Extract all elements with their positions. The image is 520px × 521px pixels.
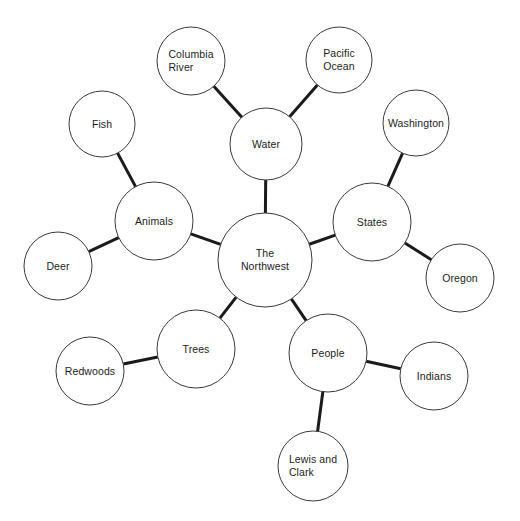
edge-animals-fish [118,153,136,187]
node-circle-indians[interactable] [400,342,468,410]
node-circle-redwoods[interactable] [56,337,124,405]
edge-northwest-animals [191,234,221,244]
concept-web-diagram: The NorthwestWaterAnimalsStatesTreesPeop… [0,0,520,521]
node-circle-water[interactable] [230,108,302,180]
edge-animals-deer [89,238,119,252]
node-circle-lewisandclark[interactable] [278,431,348,501]
edge-water-pacificocean [290,85,318,117]
edge-people-lewisandclark [318,392,323,432]
node-circle-fish[interactable] [69,91,135,157]
node-circle-northwest[interactable] [218,213,312,307]
edge-trees-redwoods [123,357,158,364]
node-circle-animals[interactable] [115,182,193,260]
edge-states-washington [388,153,403,186]
node-circle-layer [24,27,494,501]
node-circle-trees[interactable] [157,310,235,388]
edge-water-columbiariver [214,86,242,117]
diagram-canvas [0,0,520,521]
edge-northwest-states [309,235,335,244]
edge-people-indians [366,361,401,369]
edge-northwest-trees [220,297,236,318]
node-circle-deer[interactable] [24,232,92,300]
edge-states-oregon [405,243,431,260]
edge-northwest-people [291,299,306,321]
node-circle-pacificocean[interactable] [306,27,372,93]
node-circle-people[interactable] [289,314,367,392]
node-circle-states[interactable] [333,183,411,261]
node-circle-washington[interactable] [383,90,449,156]
node-circle-oregon[interactable] [426,244,494,312]
node-circle-columbiariver[interactable] [157,27,225,95]
